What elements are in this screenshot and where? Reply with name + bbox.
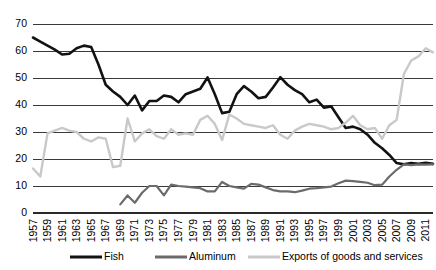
x-axis-label-1989: 1989 — [259, 219, 271, 243]
series-line-exports-of-goods-and-services — [33, 48, 433, 176]
x-axis-label-1967: 1967 — [99, 219, 111, 243]
series-line-fish — [33, 38, 433, 165]
x-axis-label-1959: 1959 — [41, 219, 53, 243]
y-axis-label-0: 0 — [21, 206, 27, 218]
x-axis-label-1963: 1963 — [70, 219, 82, 243]
x-axis-label-1975: 1975 — [157, 219, 169, 243]
x-axis-label-1983: 1983 — [216, 219, 228, 243]
x-axis-label-2003: 2003 — [361, 219, 373, 243]
y-axis-label-10: 10 — [15, 179, 27, 191]
x-axis-label-1985: 1985 — [230, 219, 242, 243]
y-axis-label-20: 20 — [15, 152, 27, 164]
legend-label-aluminum: Aluminum — [189, 250, 236, 262]
y-axis-label-30: 30 — [15, 125, 27, 137]
chart-canvas: 010203040506070 195719591961196319651967… — [0, 0, 436, 270]
x-axis-label-1977: 1977 — [172, 219, 184, 243]
x-axis-label-1995: 1995 — [303, 219, 315, 243]
x-axis-label-1981: 1981 — [201, 219, 213, 243]
x-axis-label-1961: 1961 — [56, 219, 68, 243]
x-axis-label-2001: 2001 — [347, 219, 359, 243]
y-axis-tick-labels: 010203040506070 — [15, 17, 27, 218]
x-axis-label-1979: 1979 — [187, 219, 199, 243]
x-axis-label-1965: 1965 — [85, 219, 97, 243]
y-axis-label-70: 70 — [15, 17, 27, 29]
y-axis-label-60: 60 — [15, 44, 27, 56]
x-axis-tick-labels: 1957195919611963196519671969197119731975… — [27, 219, 432, 243]
x-axis-label-2009: 2009 — [405, 219, 417, 243]
y-axis-label-50: 50 — [15, 71, 27, 83]
x-axis-label-1991: 1991 — [274, 219, 286, 243]
legend-label-exports-of-goods-and-services: Exports of goods and services — [282, 250, 423, 262]
x-axis-label-1999: 1999 — [332, 219, 344, 243]
x-axis-label-1997: 1997 — [317, 219, 329, 243]
x-axis-label-2007: 2007 — [390, 219, 402, 243]
x-axis-label-2011: 2011 — [419, 219, 431, 242]
x-axis-label-2005: 2005 — [376, 219, 388, 243]
x-axis-label-1987: 1987 — [245, 219, 257, 243]
legend-label-fish: Fish — [104, 250, 124, 262]
line-chart: 010203040506070 195719591961196319651967… — [0, 0, 436, 270]
chart-legend: FishAluminumExports of goods and service… — [70, 250, 423, 262]
x-axis-label-1971: 1971 — [128, 219, 140, 243]
y-axis-label-40: 40 — [15, 98, 27, 110]
x-axis-label-1957: 1957 — [27, 219, 39, 243]
data-series — [33, 38, 433, 205]
series-line-aluminum — [120, 164, 433, 204]
x-axis-label-1993: 1993 — [288, 219, 300, 243]
x-axis-label-1969: 1969 — [114, 219, 126, 243]
x-axis-label-1973: 1973 — [143, 219, 155, 243]
